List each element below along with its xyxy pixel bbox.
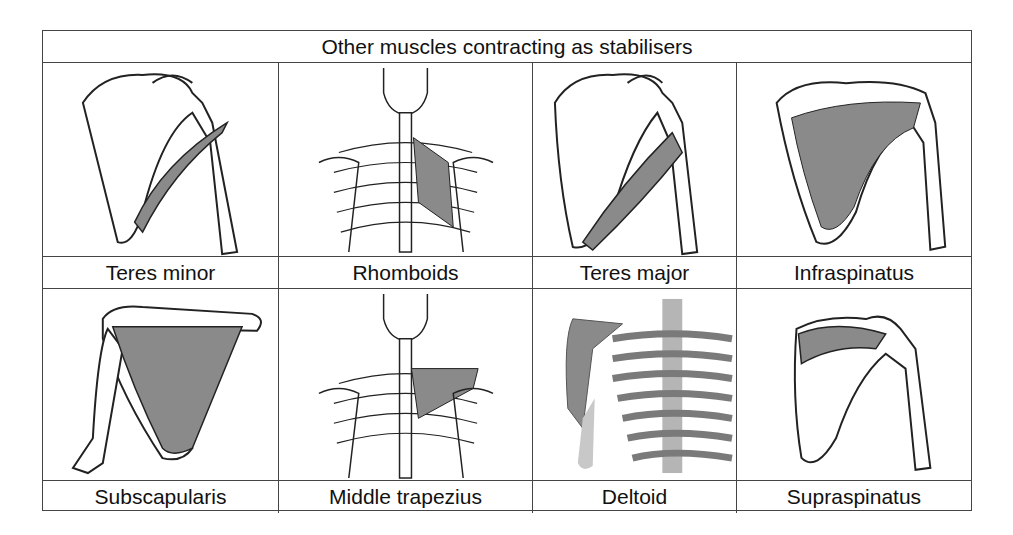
scapula-supraspinatus-icon [737, 289, 971, 480]
teres-major-illustration [533, 63, 737, 256]
upper-back-middle-trapezius-icon [279, 289, 532, 480]
muscle-label: Teres major [533, 257, 737, 288]
label-row-2: Subscapularis Middle trapezius Deltoid S… [43, 481, 971, 513]
muscle-label: Middle trapezius [279, 481, 533, 513]
scapula-infraspinatus-icon [737, 63, 971, 256]
muscle-label: Rhomboids [279, 257, 533, 288]
scapula-subscapularis-icon [43, 289, 278, 480]
scapula-teres-major-icon [533, 63, 736, 256]
infraspinatus-illustration [737, 63, 971, 256]
image-row-2 [43, 289, 971, 481]
table-title: Other muscles contracting as stabilisers [43, 31, 971, 63]
teres-minor-illustration [43, 63, 279, 256]
shoulder-deltoid-icon [533, 289, 736, 480]
muscle-label: Infraspinatus [737, 257, 971, 288]
rhomboids-illustration [279, 63, 533, 256]
scapula-teres-minor-icon [43, 63, 278, 256]
supraspinatus-illustration [737, 289, 971, 480]
muscle-label: Supraspinatus [737, 481, 971, 513]
muscle-label: Teres minor [43, 257, 279, 288]
upper-back-rhomboids-icon [279, 63, 532, 256]
image-row-1 [43, 63, 971, 257]
subscapularis-illustration [43, 289, 279, 480]
muscle-table: Other muscles contracting as stabilisers [42, 30, 972, 511]
muscle-label: Deltoid [533, 481, 737, 513]
middle-trapezius-illustration [279, 289, 533, 480]
muscle-label: Subscapularis [43, 481, 279, 513]
deltoid-illustration [533, 289, 737, 480]
label-row-1: Teres minor Rhomboids Teres major Infras… [43, 257, 971, 289]
